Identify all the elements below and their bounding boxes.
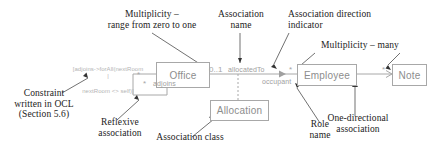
- annotation-multiplicity-many: Multiplicity – many: [305, 40, 415, 51]
- annotation-multiplicity-zero-to-one: Multiplicity – range from zero to one: [93, 9, 211, 30]
- class-box-allocation[interactable]: Allocation: [210, 100, 269, 121]
- class-box-note[interactable]: Note: [392, 64, 427, 86]
- arrowhead-reflexive-association: [134, 95, 139, 100]
- annotation-association-direction-indicator: Association direction indicator: [288, 9, 398, 30]
- multiplicity-office-label: 0..1: [209, 65, 222, 74]
- uml-diagram-figure: Office Allocation Employee Note allocate…: [0, 0, 431, 149]
- association-name-label: allocatedTo: [228, 66, 265, 73]
- multiplicity-note-label: *: [382, 65, 385, 74]
- association-direction-triangle: [279, 71, 286, 78]
- class-name-allocation: Allocation: [217, 105, 262, 116]
- class-name-office: Office: [169, 70, 196, 81]
- annotation-association-class: Association class: [144, 132, 236, 143]
- class-name-note: Note: [399, 70, 421, 81]
- arrowhead-association-direction: [271, 64, 277, 69]
- ocl-constraint-line2: nextRoom <> self)]: [82, 88, 134, 94]
- role-name-label: occupant: [262, 78, 291, 85]
- multiplicity-employee-label: *: [289, 65, 292, 74]
- annotation-association-name: Association name: [210, 9, 272, 30]
- ocl-constraint-line1: [adjoins->forAll(nextRoom |: [73, 66, 143, 80]
- class-box-employee[interactable]: Employee: [297, 64, 357, 86]
- class-name-employee: Employee: [304, 70, 350, 81]
- annotation-constraint-ocl: Constraint written in OCL (Section 5.6): [6, 88, 82, 120]
- ocl-constraint-text: [adjoins->forAll(nextRoom | nextRoom <> …: [72, 58, 144, 96]
- arrowhead-association-name: [238, 58, 242, 63]
- leader-association-direction: [274, 33, 289, 64]
- arrowhead-multiplicity-many-right: [386, 65, 392, 70]
- annotation-one-directional-association: One-directional association: [311, 113, 405, 134]
- reflexive-association-name-label: adjoins: [153, 80, 176, 87]
